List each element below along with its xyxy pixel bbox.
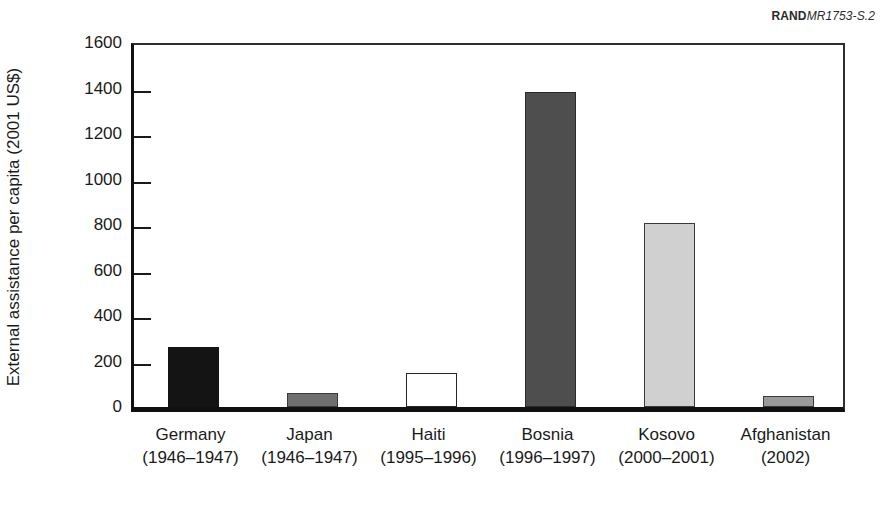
- y-tick-label-1000: 1000: [52, 171, 122, 189]
- bar-afghanistan: [763, 396, 814, 407]
- y-tick-label-400: 400: [52, 307, 122, 325]
- bar-haiti: [406, 373, 457, 407]
- x-label-afghanistan: Afghanistan(2002): [696, 423, 876, 469]
- y-tick-label-600: 600: [52, 262, 122, 280]
- y-tick-label-1600: 1600: [52, 34, 122, 52]
- y-tick-1200: [134, 136, 151, 138]
- x-label-name: Afghanistan: [696, 423, 876, 446]
- y-tick-label-1200: 1200: [52, 125, 122, 143]
- y-tick-400: [134, 318, 151, 320]
- y-axis-title-wrap: External assistance per capita (2001 US$…: [0, 43, 30, 412]
- y-tick-200: [134, 364, 151, 366]
- bar-japan: [287, 393, 338, 407]
- y-axis-title: External assistance per capita (2001 US$…: [1, 43, 27, 412]
- chart-plot-area: [131, 43, 845, 412]
- y-tick-label-0: 0: [52, 398, 122, 416]
- bar-germany: [168, 347, 219, 407]
- y-tick-1400: [134, 91, 151, 93]
- bar-bosnia: [525, 92, 576, 407]
- x-label-years: (2002): [696, 446, 876, 469]
- y-tick-label-1400: 1400: [52, 80, 122, 98]
- bar-kosovo: [644, 223, 695, 407]
- y-tick-1000: [134, 182, 151, 184]
- watermark-brand: RAND: [772, 9, 807, 23]
- y-tick-800: [134, 227, 151, 229]
- y-tick-label-800: 800: [52, 216, 122, 234]
- rand-watermark: RANDMR1753-S.2: [772, 9, 875, 23]
- y-tick-label-200: 200: [52, 353, 122, 371]
- y-tick-600: [134, 273, 151, 275]
- watermark-code: MR1753-S.2: [807, 9, 875, 23]
